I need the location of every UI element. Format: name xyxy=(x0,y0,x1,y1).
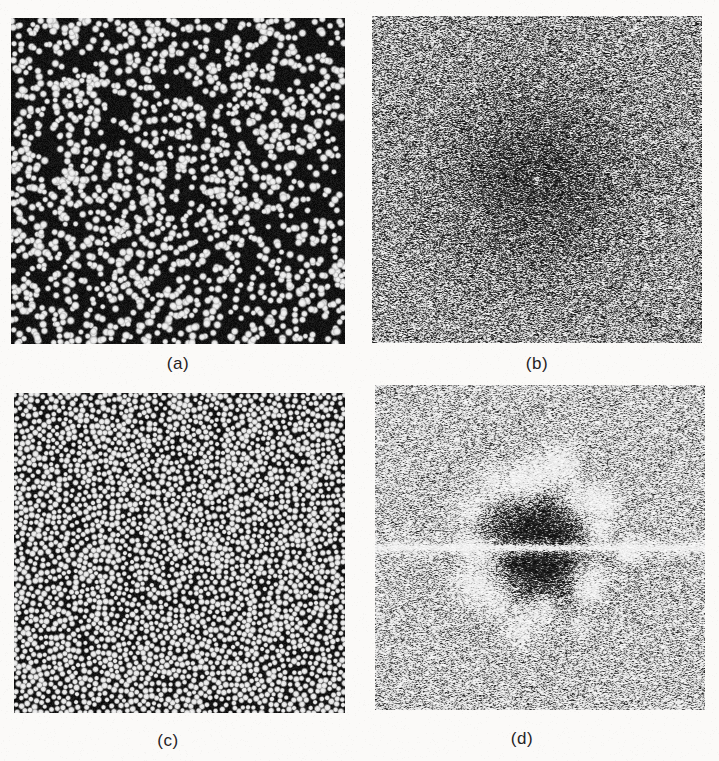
panel-c xyxy=(14,393,345,713)
panel-c-canvas xyxy=(14,393,345,713)
panel-b-canvas xyxy=(372,16,702,343)
panel-a-caption: (a) xyxy=(167,354,189,374)
panel-b xyxy=(372,16,702,343)
panel-a-canvas xyxy=(11,18,345,344)
panel-d-caption: (d) xyxy=(511,729,533,749)
panel-c-caption: (c) xyxy=(157,731,178,751)
panel-b-caption: (b) xyxy=(526,354,548,374)
panel-d xyxy=(375,385,705,710)
panel-d-canvas xyxy=(375,385,705,710)
figure-page: (a) (b) (c) (d) xyxy=(0,0,719,761)
panel-a xyxy=(11,18,345,344)
